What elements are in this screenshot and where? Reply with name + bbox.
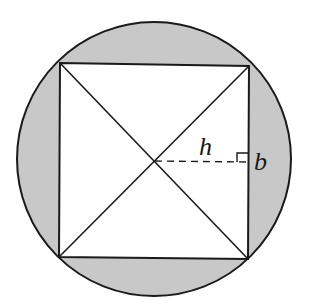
height-label: h	[199, 132, 212, 161]
base-label: b	[254, 147, 267, 176]
inscribed-square-diagram: h b	[0, 0, 313, 307]
diagram-canvas: h b	[0, 0, 313, 307]
